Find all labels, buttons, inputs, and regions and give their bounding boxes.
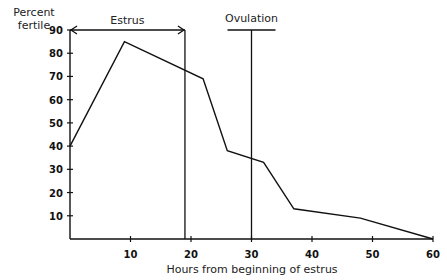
y-tick-label: 50 xyxy=(49,118,63,129)
fertility-chart: 102030405060708090102030405060 EstrusOvu… xyxy=(0,0,447,280)
x-tick-label: 10 xyxy=(124,249,138,260)
ovulation-label: Ovulation xyxy=(225,12,278,25)
y-tick-label: 90 xyxy=(49,25,63,36)
y-axis-label-2: fertile xyxy=(18,19,51,32)
y-tick-label: 20 xyxy=(49,188,63,199)
y-tick-label: 60 xyxy=(49,95,63,106)
x-tick-label: 50 xyxy=(366,249,380,260)
y-tick-label: 70 xyxy=(49,71,63,82)
y-axis-label: Percent xyxy=(13,6,55,19)
x-tick-label: 40 xyxy=(305,249,319,260)
estrus-label: Estrus xyxy=(110,14,144,27)
x-tick-label: 20 xyxy=(184,249,198,260)
y-tick-label: 40 xyxy=(49,141,63,152)
x-axis-label: Hours from beginning of estrus xyxy=(166,263,337,276)
x-tick-label: 30 xyxy=(245,249,259,260)
y-tick-label: 10 xyxy=(49,211,63,222)
y-tick-label: 30 xyxy=(49,164,63,175)
annotations: EstrusOvulation xyxy=(70,12,278,239)
x-tick-label: 60 xyxy=(426,249,440,260)
y-tick-label: 80 xyxy=(49,48,63,59)
